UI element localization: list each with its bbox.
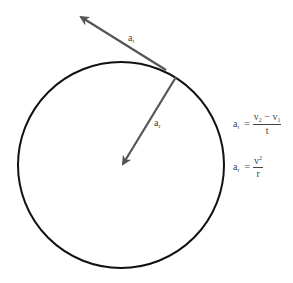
v-squared: 2 [259, 155, 262, 161]
tangential-arrow-label: at [128, 33, 134, 44]
denominator: t [266, 125, 269, 136]
circular-path [18, 62, 224, 268]
tangential-acceleration-formula: at = v2 − v1 t [233, 112, 281, 136]
numerator: v2 [253, 155, 263, 168]
equals-sign: = [244, 119, 250, 129]
circular-motion-diagram [0, 0, 293, 283]
radial-acceleration-formula: ar = v2 r [233, 155, 263, 179]
formula-lhs: at [233, 119, 239, 130]
formula-lhs: ar [233, 162, 239, 173]
formula-sub: r [237, 167, 239, 173]
equals-sign: = [244, 162, 250, 172]
label-sub: t [132, 38, 134, 44]
numerator: v2 − v1 [253, 112, 282, 125]
fraction: v2 r [253, 155, 263, 179]
fraction: v2 − v1 t [253, 112, 282, 136]
formula-sub: t [237, 124, 239, 130]
v1-sub: 1 [277, 117, 280, 123]
minus-sign: − [262, 111, 273, 122]
label-sub: r [158, 123, 160, 129]
denominator: r [256, 168, 259, 179]
radial-arrow-label: ar [154, 118, 160, 129]
radial-acceleration-arrow [123, 77, 176, 164]
